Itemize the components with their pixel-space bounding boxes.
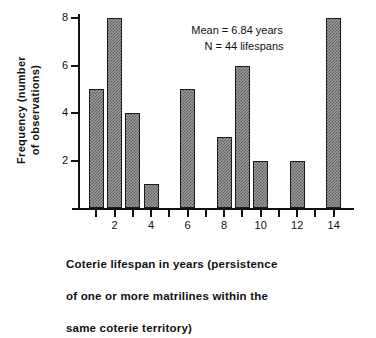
bar-x10 bbox=[253, 161, 268, 209]
bar-x9 bbox=[235, 66, 250, 209]
x-tick-5 bbox=[168, 210, 170, 217]
bar-x4 bbox=[144, 184, 159, 208]
bar-x2 bbox=[107, 18, 122, 208]
caption-line-1: Coterie lifespan in years (persistence bbox=[66, 256, 366, 272]
x-tick-label-8: 8 bbox=[211, 220, 237, 231]
y-tick-label-8: 8 bbox=[50, 12, 68, 23]
y-tick-6 bbox=[71, 65, 78, 67]
x-tick-6 bbox=[187, 210, 189, 217]
x-tick-10 bbox=[260, 210, 262, 217]
x-tick-label-2: 2 bbox=[102, 220, 128, 231]
y-axis-line bbox=[78, 14, 80, 208]
bar-x3 bbox=[125, 113, 140, 208]
x-tick-label-14: 14 bbox=[321, 220, 347, 231]
bar-x14 bbox=[326, 18, 341, 208]
x-tick-9 bbox=[241, 210, 243, 217]
x-tick-14 bbox=[333, 210, 335, 217]
x-tick-label-6: 6 bbox=[175, 220, 201, 231]
y-axis-title: Frequency (number of observations) bbox=[14, 10, 42, 210]
x-tick-8 bbox=[223, 210, 225, 217]
x-tick-label-12: 12 bbox=[284, 220, 310, 231]
x-axis-caption: Coterie lifespan in years (persistence o… bbox=[66, 240, 366, 338]
y-tick-label-4: 4 bbox=[50, 107, 68, 118]
x-tick-13 bbox=[314, 210, 316, 217]
y-tick-8 bbox=[71, 17, 78, 19]
x-tick-label-4: 4 bbox=[138, 220, 164, 231]
bar-x1 bbox=[89, 89, 104, 208]
y-tick-label-2: 2 bbox=[50, 155, 68, 166]
caption-line-2: of one or more matrilines within the bbox=[66, 288, 366, 304]
x-tick-3 bbox=[132, 210, 134, 217]
y-tick-4 bbox=[71, 112, 78, 114]
bar-x12 bbox=[290, 161, 305, 209]
x-tick-label-10: 10 bbox=[248, 220, 274, 231]
y-tick-2 bbox=[71, 160, 78, 162]
x-tick-12 bbox=[296, 210, 298, 217]
x-tick-7 bbox=[205, 210, 207, 217]
annotation-n: N = 44 lifespans bbox=[152, 38, 322, 54]
bar-x8 bbox=[217, 137, 232, 208]
x-tick-11 bbox=[278, 210, 280, 217]
annotation-mean: Mean = 6.84 years bbox=[152, 22, 322, 38]
x-tick-2 bbox=[114, 210, 116, 217]
chart-annotation: Mean = 6.84 years N = 44 lifespans bbox=[152, 22, 322, 54]
y-tick-label-6: 6 bbox=[50, 60, 68, 71]
x-tick-4 bbox=[150, 210, 152, 217]
x-tick-1 bbox=[95, 210, 97, 217]
bar-x6 bbox=[180, 89, 195, 208]
caption-line-3: same coterie territory) bbox=[66, 320, 366, 336]
